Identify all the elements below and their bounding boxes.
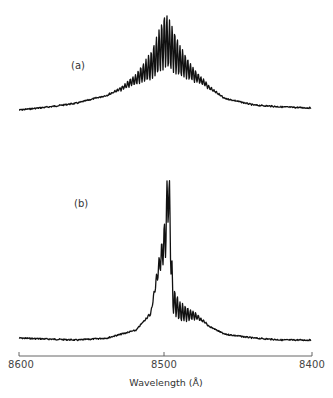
trace-b — [19, 181, 311, 341]
trace-b-label: (b) — [74, 198, 88, 209]
spectrum-plot — [0, 0, 333, 398]
x-tick-label-8500: 8500 — [151, 359, 177, 370]
trace-a-label: (a) — [71, 60, 85, 71]
x-axis-label: Wavelength (Å) — [129, 377, 202, 388]
x-tick-label-8600: 8600 — [8, 359, 34, 370]
trace-a — [19, 16, 311, 110]
x-tick-label-8400: 8400 — [299, 359, 325, 370]
